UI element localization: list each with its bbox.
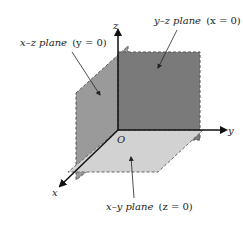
yz-plane-label: y–z plane (x = 0) [153,15,241,26]
coordinate-planes-diagram: z y x O y–z plane (x = 0) x–z plane (y =… [0,0,243,225]
y-axis-label: y [227,125,234,136]
xz-plane-label: x–z plane (y = 0) [20,37,107,48]
x-axis-label: x [52,187,58,198]
xy-plane-label: x–y plane (z = 0) [106,201,193,212]
origin-label: O [117,134,125,145]
z-axis-label: z [112,20,119,31]
